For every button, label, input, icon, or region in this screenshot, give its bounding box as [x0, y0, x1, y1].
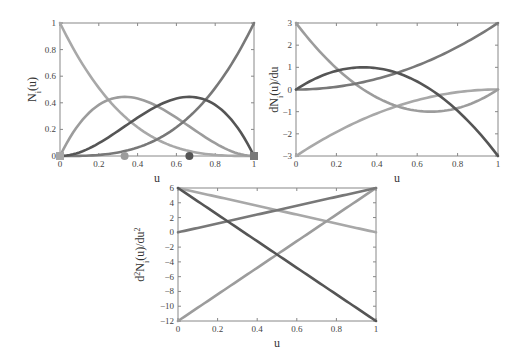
curve-dN2 [296, 67, 498, 156]
y-tick-label: 0.6 [45, 71, 57, 81]
y-tick-label: 1 [288, 62, 293, 72]
y-tick-label: 0.4 [45, 98, 57, 108]
control-point-square-marker [56, 152, 64, 160]
figure: 00.20.40.60.8100.20.40.60.81uNi(u) 00.20… [0, 0, 518, 362]
x-tick-label: 0.6 [291, 324, 303, 334]
x-tick-label: 1 [252, 159, 257, 169]
plot-frame [60, 23, 254, 156]
y-tick-label: 6 [170, 183, 175, 193]
y-tick-label: 0.2 [45, 124, 56, 134]
plot-frame [296, 23, 498, 156]
x-tick-label: 0.8 [452, 159, 464, 169]
control-point-circle-marker [121, 152, 129, 160]
x-tick-label: 0.6 [412, 159, 424, 169]
x-tick-label: 0 [58, 159, 63, 169]
x-tick-label: 0.2 [331, 159, 342, 169]
x-tick-label: 0.6 [171, 159, 183, 169]
x-tick-label: 0 [176, 324, 181, 334]
x-tick-label: 0.4 [252, 324, 264, 334]
x-axis-label: u [274, 336, 280, 350]
y-tick-label: −10 [160, 301, 175, 311]
y-tick-label: 0.8 [45, 45, 57, 55]
y-tick-label: 0 [52, 151, 57, 161]
y-axis-label: Ni(u) [25, 77, 43, 102]
x-axis-label: u [154, 171, 160, 185]
y-tick-label: −6 [164, 272, 174, 282]
y-tick-label: 0 [170, 227, 175, 237]
y-tick-label: −1 [282, 107, 292, 117]
x-tick-label: 0.4 [132, 159, 144, 169]
y-axis-label: d2Ni(u)/du2 [133, 227, 151, 281]
control-point-square-marker [250, 152, 258, 160]
x-tick-label: 0 [294, 159, 299, 169]
curve-N3 [60, 23, 254, 156]
curve-dN1 [296, 23, 498, 112]
second-derivative-plot: 00.20.40.60.81−12−10−8−6−4−20246ud2Ni(u)… [133, 183, 379, 350]
x-axis-label: u [394, 171, 400, 185]
y-tick-label: 2 [170, 213, 175, 223]
y-tick-label: 2 [288, 40, 293, 50]
y-tick-label: 1 [52, 18, 57, 28]
control-point-circle-marker [185, 152, 193, 160]
x-tick-label: 0.2 [93, 159, 104, 169]
y-tick-label: −2 [164, 242, 174, 252]
y-tick-label: −4 [164, 257, 174, 267]
x-tick-label: 0.4 [371, 159, 383, 169]
y-tick-label: 4 [170, 198, 175, 208]
curve-dN0 [296, 90, 498, 157]
x-tick-label: 0.8 [210, 159, 222, 169]
y-tick-label: −12 [160, 316, 174, 326]
y-tick-label: −2 [282, 129, 292, 139]
y-tick-label: 3 [288, 18, 293, 28]
curve-dN3 [296, 23, 498, 90]
y-tick-label: 0 [288, 85, 293, 95]
x-tick-label: 0.2 [212, 324, 223, 334]
x-tick-label: 1 [496, 159, 501, 169]
first-derivative-plot: 00.20.40.60.81−3−2−10123udNi(u)/du [267, 18, 500, 185]
basis-functions-plot: 00.20.40.60.8100.20.40.60.81uNi(u) [25, 18, 258, 185]
y-tick-label: −3 [282, 151, 292, 161]
y-tick-label: −8 [164, 286, 174, 296]
curve-N0 [60, 23, 254, 156]
x-tick-label: 0.8 [331, 324, 343, 334]
x-tick-label: 1 [374, 324, 379, 334]
